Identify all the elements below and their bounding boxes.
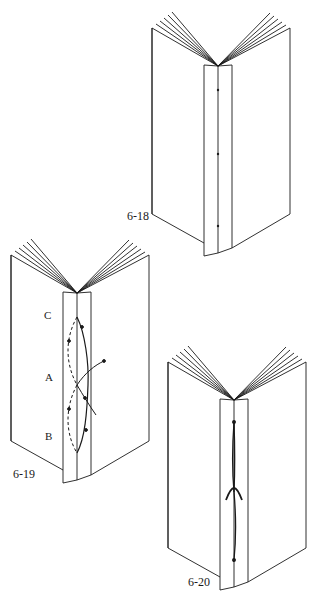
station-label-a: A bbox=[45, 372, 53, 383]
sewing-path bbox=[68, 317, 106, 453]
station-dot bbox=[217, 225, 219, 227]
station-label-b: B bbox=[45, 431, 52, 442]
thread-inside-path bbox=[68, 385, 77, 453]
station-dot bbox=[217, 153, 219, 155]
station-label-c: C bbox=[44, 310, 51, 321]
station-dot bbox=[217, 89, 219, 91]
figure-label: 6-19 bbox=[13, 468, 35, 480]
illustration-canvas bbox=[0, 0, 316, 595]
figure-6-18 bbox=[152, 12, 290, 256]
thread-end bbox=[77, 361, 104, 385]
figure-label: 6-18 bbox=[127, 210, 149, 222]
thread-stitch bbox=[234, 422, 235, 492]
figure-6-19 bbox=[11, 239, 149, 483]
thread-outside-path bbox=[77, 317, 88, 453]
figure-6-20 bbox=[168, 346, 306, 590]
thread-inside-path bbox=[68, 317, 77, 385]
figure-label: 6-20 bbox=[188, 576, 210, 588]
